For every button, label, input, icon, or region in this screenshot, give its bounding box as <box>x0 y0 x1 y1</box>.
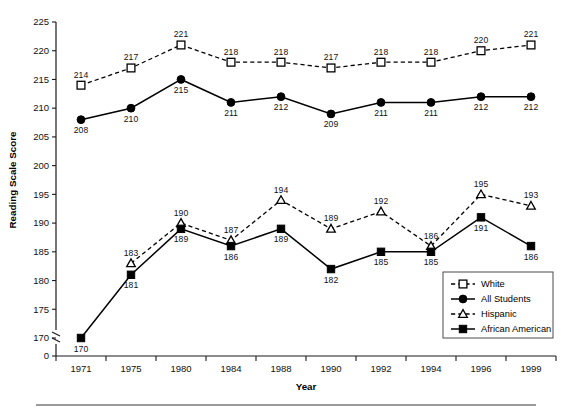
data-point-marker <box>177 76 185 84</box>
chart-figure: 1701751801851901952002052102152202250197… <box>0 0 571 413</box>
data-point-label: 210 <box>124 114 139 124</box>
legend-label-african-american: African American <box>481 324 551 334</box>
series-all-students: 208210215211212209211211212212 <box>74 76 539 136</box>
data-point-label: 182 <box>324 275 339 285</box>
data-point-label: 218 <box>424 47 439 57</box>
data-point-marker <box>477 190 486 198</box>
y-tick-label: 220 <box>33 45 49 56</box>
data-point-marker <box>477 93 485 101</box>
series-line <box>81 45 531 85</box>
data-point-marker <box>127 64 135 72</box>
x-tick-label: 1975 <box>120 363 141 374</box>
data-point-label: 186 <box>524 252 539 262</box>
data-point-label: 185 <box>424 257 439 267</box>
data-point-label: 217 <box>124 52 139 62</box>
data-point-marker <box>127 271 134 278</box>
data-point-label: 214 <box>74 70 89 80</box>
series-line <box>81 79 531 119</box>
data-point-label: 181 <box>124 280 139 290</box>
y-axis-title: Reading Scale Score <box>7 131 18 228</box>
reading-scale-score-line-chart: 1701751801851901952002052102152202250197… <box>0 0 571 413</box>
legend-label-all-students: All Students <box>481 294 531 304</box>
data-point-label: 208 <box>74 125 89 135</box>
footer-rule <box>36 404 536 406</box>
data-point-marker <box>327 265 334 272</box>
data-point-marker <box>377 99 385 107</box>
data-point-label: 217 <box>324 52 339 62</box>
data-point-label: 170 <box>74 344 89 354</box>
data-point-marker <box>527 242 534 249</box>
legend-label-hispanic: Hispanic <box>481 309 517 319</box>
x-tick-label: 1980 <box>170 363 191 374</box>
x-tick-label: 1996 <box>470 363 491 374</box>
data-point-marker <box>477 47 485 55</box>
y-tick-label: 215 <box>33 74 49 85</box>
data-point-marker <box>77 81 85 89</box>
data-point-marker <box>377 207 386 215</box>
data-point-marker <box>377 58 385 66</box>
y-tick-label: 180 <box>33 275 49 286</box>
data-point-label: 209 <box>324 119 339 129</box>
x-tick-label: 1988 <box>270 363 291 374</box>
data-point-label: 187 <box>224 225 239 235</box>
data-point-label: 189 <box>274 234 289 244</box>
legend-label-white: White <box>481 279 505 289</box>
data-point-marker <box>459 280 467 288</box>
x-axis-title: Year <box>296 381 317 392</box>
y-tick-label: 185 <box>33 246 49 257</box>
data-point-label: 212 <box>524 102 539 112</box>
data-point-marker <box>459 325 466 332</box>
y-tick-label: 190 <box>33 217 49 228</box>
y-origin-label: 0 <box>44 350 49 361</box>
y-tick-label: 205 <box>33 131 49 142</box>
data-point-label: 189 <box>324 213 339 223</box>
x-tick-label: 1990 <box>320 363 341 374</box>
data-point-marker <box>127 104 135 112</box>
data-point-label: 190 <box>174 208 189 218</box>
data-point-marker <box>527 201 536 209</box>
y-tick-label: 200 <box>33 160 49 171</box>
data-point-marker <box>477 214 484 221</box>
data-point-marker <box>427 99 435 107</box>
data-point-marker <box>277 196 286 204</box>
series-white: 214217221218218217218218220221 <box>74 29 539 89</box>
y-axis-break-icon <box>52 332 60 342</box>
data-point-label: 186 <box>424 231 439 241</box>
data-point-marker <box>377 248 384 255</box>
data-point-label: 212 <box>474 102 489 112</box>
data-point-marker <box>277 93 285 101</box>
x-tick-label: 1994 <box>420 363 441 374</box>
data-point-marker <box>327 224 336 232</box>
data-point-marker <box>227 99 235 107</box>
data-point-label: 194 <box>274 185 289 195</box>
data-point-marker <box>327 110 335 118</box>
x-tick-label: 1992 <box>370 363 391 374</box>
data-point-marker <box>227 58 235 66</box>
y-tick-label: 225 <box>33 16 49 27</box>
data-point-marker <box>527 93 535 101</box>
data-point-marker <box>277 58 285 66</box>
data-point-marker <box>227 242 234 249</box>
data-point-label: 192 <box>374 196 389 206</box>
data-point-marker <box>77 116 85 124</box>
data-point-marker <box>459 295 467 303</box>
data-point-label: 218 <box>374 47 389 57</box>
data-point-marker <box>427 58 435 66</box>
data-point-label: 215 <box>174 85 189 95</box>
data-point-marker <box>527 41 535 49</box>
data-point-label: 189 <box>174 234 189 244</box>
data-point-label: 221 <box>174 29 189 39</box>
data-point-label: 212 <box>274 102 289 112</box>
data-point-label: 186 <box>224 252 239 262</box>
data-point-label: 195 <box>474 179 489 189</box>
data-point-marker <box>327 64 335 72</box>
y-tick-label: 195 <box>33 189 49 200</box>
x-tick-label: 1984 <box>220 363 241 374</box>
data-point-marker <box>277 225 284 232</box>
chart-legend: WhiteAll StudentsHispanicAfrican America… <box>443 272 553 338</box>
data-point-label: 221 <box>524 29 539 39</box>
data-point-label: 193 <box>524 190 539 200</box>
data-point-marker <box>427 248 434 255</box>
data-point-label: 211 <box>424 108 438 118</box>
data-point-marker <box>177 41 185 49</box>
